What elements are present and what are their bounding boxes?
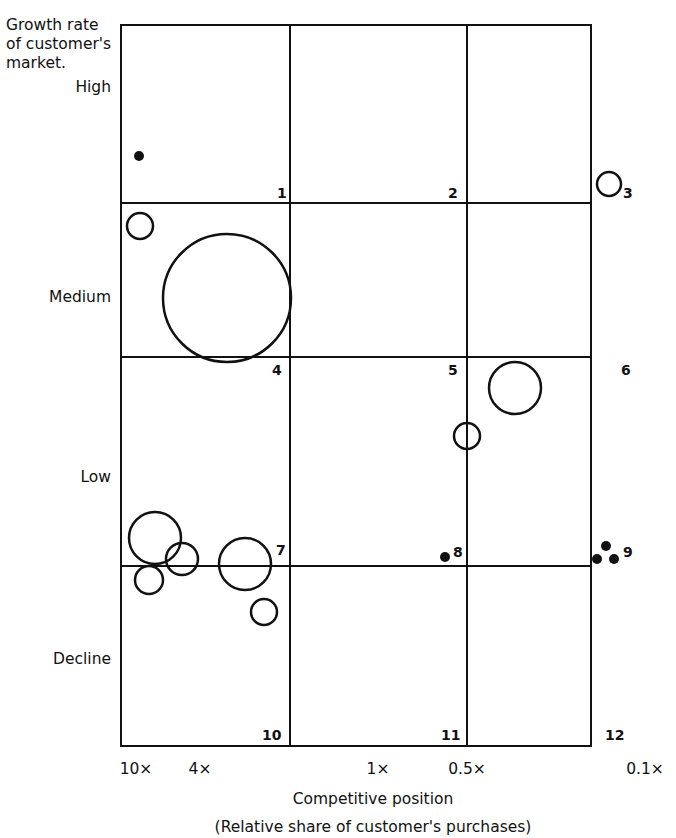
filled-dot-point bbox=[440, 552, 450, 562]
grid bbox=[121, 25, 591, 746]
cell-numbers: 1 2 3 4 5 6 7 8 9 10 11 12 bbox=[262, 185, 633, 743]
bubble-point bbox=[597, 172, 621, 196]
cell-number-4: 4 bbox=[272, 362, 282, 378]
bubble-point bbox=[129, 512, 181, 564]
cell-number-2: 2 bbox=[448, 185, 458, 201]
cell-number-8: 8 bbox=[453, 544, 463, 560]
bubble-point bbox=[489, 362, 541, 414]
filled-dot-point bbox=[601, 541, 611, 551]
bubble-point bbox=[163, 234, 291, 362]
bubble-matrix-plot: 1 2 3 4 5 6 7 8 9 10 11 12 bbox=[0, 0, 676, 838]
data-points bbox=[127, 151, 621, 625]
bubble-point bbox=[127, 213, 153, 239]
cell-number-1: 1 bbox=[277, 185, 287, 201]
filled-dot-point bbox=[134, 151, 144, 161]
bubble-point bbox=[219, 538, 271, 590]
x-tick-4x: 4× bbox=[189, 760, 212, 778]
x-axis-subtitle: (Relative share of customer's purchases) bbox=[35, 818, 676, 836]
cell-number-6: 6 bbox=[621, 362, 631, 378]
x-tick-1x: 1× bbox=[367, 760, 390, 778]
cell-number-5: 5 bbox=[448, 362, 458, 378]
bubble-point bbox=[251, 599, 277, 625]
cell-number-12: 12 bbox=[605, 727, 624, 743]
x-tick-0-1x: 0.1× bbox=[626, 760, 664, 778]
x-tick-10x: 10× bbox=[120, 760, 153, 778]
cell-number-3: 3 bbox=[623, 185, 633, 201]
x-tick-0-5x: 0.5× bbox=[448, 760, 486, 778]
cell-number-11: 11 bbox=[441, 727, 460, 743]
cell-number-10: 10 bbox=[262, 727, 282, 743]
cell-number-7: 7 bbox=[276, 542, 286, 558]
filled-dot-point bbox=[609, 554, 619, 564]
x-axis-title: Competitive position bbox=[35, 790, 676, 808]
cell-number-9: 9 bbox=[623, 544, 633, 560]
filled-dot-point bbox=[592, 554, 602, 564]
bubble-point bbox=[135, 566, 163, 594]
